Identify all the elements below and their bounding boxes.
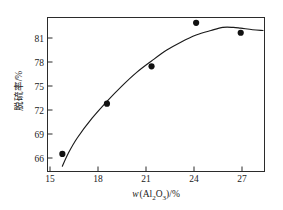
data-point — [238, 30, 244, 36]
y-tick-label: 78 — [35, 58, 45, 68]
y-tick-label: 72 — [35, 106, 45, 116]
data-point — [148, 63, 154, 69]
y-tick-label: 66 — [35, 154, 45, 164]
x-axis-title-symbol: w — [132, 189, 139, 199]
x-tick-label: 27 — [237, 174, 247, 184]
y-tick-label: 81 — [35, 34, 45, 44]
data-point — [59, 151, 65, 157]
x-axis-tick-labels: 15 18 21 24 27 — [45, 174, 247, 184]
chart-figure: 66 69 72 75 78 81 15 18 21 24 27 w(A — [0, 0, 283, 210]
chart-plot-area: 66 69 72 75 78 81 15 18 21 24 27 w(A — [0, 0, 283, 210]
x-axis-title: w(Al2O3)/% — [132, 189, 180, 202]
x-tick-label: 18 — [93, 174, 103, 184]
x-tick-label: 15 — [45, 174, 55, 184]
x-axis-title-close-paren: )/% — [166, 189, 180, 200]
data-points-group — [59, 20, 244, 157]
fitted-trend-curve — [62, 27, 263, 166]
y-tick-label: 69 — [35, 130, 45, 140]
x-tick-label: 24 — [189, 174, 199, 184]
y-tick-label: 75 — [35, 82, 45, 92]
data-point — [193, 20, 199, 26]
data-point — [104, 101, 110, 107]
x-tick-label: 21 — [141, 174, 151, 184]
x-axis-title-element-al: Al — [143, 189, 153, 199]
plot-frame — [48, 18, 265, 172]
x-axis-ticks — [50, 167, 242, 172]
y-axis-ticks — [48, 38, 53, 158]
y-axis-tick-labels: 66 69 72 75 78 81 — [35, 34, 45, 164]
